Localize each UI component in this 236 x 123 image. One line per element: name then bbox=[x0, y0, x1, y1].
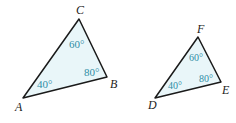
angle-label-f: 60° bbox=[189, 52, 203, 63]
triangle-def-shape bbox=[155, 37, 221, 98]
vertex-label-a: A bbox=[14, 100, 23, 114]
vertex-label-e: E bbox=[221, 83, 230, 97]
angle-label-e: 80° bbox=[199, 73, 213, 84]
triangle-abc: C B A 60° 80° 40° bbox=[14, 3, 118, 114]
vertex-label-f: F bbox=[196, 22, 205, 36]
angle-label-d: 40° bbox=[168, 80, 182, 91]
angle-label-c: 60° bbox=[69, 38, 84, 50]
triangle-abc-shape bbox=[23, 19, 107, 98]
triangle-def: F E D 60° 80° 40° bbox=[147, 22, 230, 112]
vertex-label-b: B bbox=[110, 77, 118, 91]
angle-label-a: 40° bbox=[37, 78, 52, 90]
vertex-label-c: C bbox=[76, 3, 85, 17]
angle-label-b: 80° bbox=[84, 66, 99, 78]
vertex-label-d: D bbox=[147, 98, 157, 112]
similar-triangles-diagram: C B A 60° 80° 40° F E D 60° 80° 40° bbox=[0, 0, 236, 123]
